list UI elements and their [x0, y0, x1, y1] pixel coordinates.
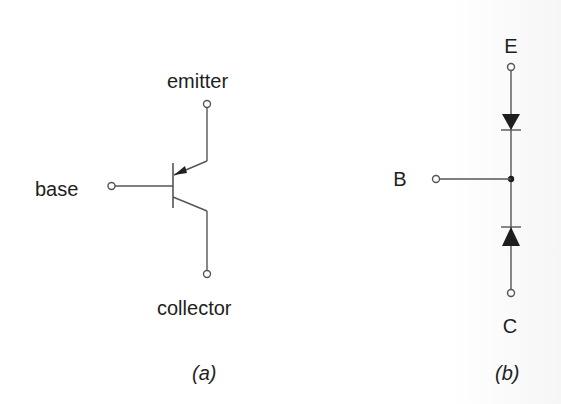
collector-label: collector: [157, 297, 232, 319]
emitter-terminal: [204, 101, 211, 108]
lower-diode-icon: [502, 227, 520, 246]
emitter-arrow-icon: [174, 166, 187, 175]
collector-terminal: [204, 271, 211, 278]
b-terminal: [433, 176, 440, 183]
base-terminal: [108, 183, 115, 190]
e-label: E: [504, 35, 517, 57]
caption-b: (b): [495, 362, 519, 384]
collector-diagonal: [173, 197, 207, 211]
c-terminal: [508, 290, 515, 297]
transistor-diagram: emitter base collector (a) E B C (b): [0, 0, 561, 404]
caption-a: (a): [192, 362, 216, 384]
upper-diode-icon: [502, 114, 520, 130]
base-label: base: [35, 178, 78, 200]
emitter-label: emitter: [167, 70, 228, 92]
figure-b: [433, 64, 522, 297]
e-terminal: [508, 64, 515, 71]
b-label: B: [393, 168, 406, 190]
c-label: C: [503, 315, 517, 337]
diagram-canvas: emitter base collector (a) E B C (b): [0, 0, 561, 404]
figure-a: [108, 101, 211, 278]
